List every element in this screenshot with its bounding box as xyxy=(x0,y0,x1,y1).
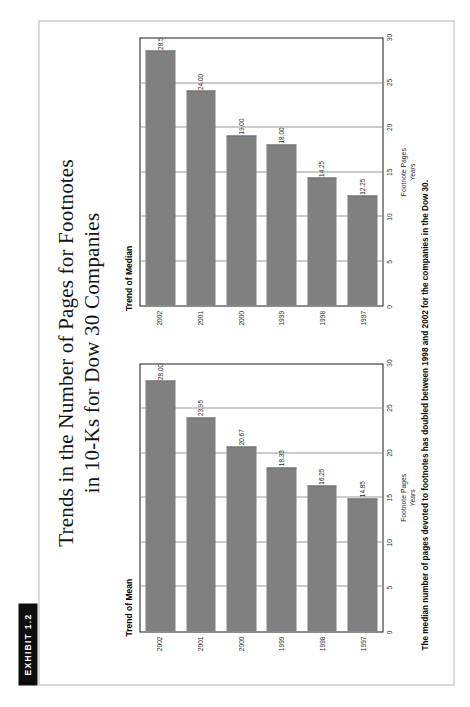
exhibit-caption: The median number of pages devoted to fo… xyxy=(420,43,431,650)
bar xyxy=(186,90,216,305)
value-tick: 15 xyxy=(385,168,392,175)
page-title-line1: Trends in the Number of Pages for Footno… xyxy=(53,159,77,547)
value-tick: 30 xyxy=(385,359,392,366)
chart-title-mean: Trend of Mean xyxy=(123,578,133,636)
bar-row: 19.00 xyxy=(226,38,256,305)
exhibit-frame: Trends in the Number of Pages for Footno… xyxy=(38,20,454,685)
bar-value-label: 16.25 xyxy=(318,468,325,486)
year-axis-mean: 200220012000199919981997 xyxy=(139,632,383,666)
value-axis-title-mean: Years xyxy=(408,363,415,632)
bar-value-label: 14.85 xyxy=(358,481,365,499)
footnote-pages-axis-title: Footnote Pages xyxy=(399,37,406,306)
bar-row: 14.25 xyxy=(307,38,337,305)
bar xyxy=(145,380,175,631)
bar-value-label: 28.50 xyxy=(157,37,164,51)
year-tick: 1999 xyxy=(278,310,285,325)
bar-row: 12.25 xyxy=(347,38,377,305)
bar-value-label: 28.00 xyxy=(157,363,164,381)
value-tick: 0 xyxy=(385,630,392,634)
year-tick: 2000 xyxy=(237,310,244,325)
chart-trend-of-median: Trend of Median 200220012000199919981997… xyxy=(123,35,423,340)
bar xyxy=(347,195,377,305)
page-inner: EXHIBIT 1.2 Trends in the Number of Page… xyxy=(0,0,470,707)
rotated-page: EXHIBIT 1.2 Trends in the Number of Page… xyxy=(0,0,470,707)
value-tick: 30 xyxy=(385,33,392,40)
bar xyxy=(186,417,216,631)
bar xyxy=(307,177,337,305)
bar xyxy=(145,50,175,305)
year-tick: 2000 xyxy=(237,636,244,651)
plot-area-median: 28.5024.0019.0018.0014.2512.25 xyxy=(139,37,383,306)
value-tick: 0 xyxy=(385,305,392,309)
value-axis-title-median: Years xyxy=(408,37,415,306)
bar-value-label: 24.00 xyxy=(197,73,204,91)
bar-series: 28.5024.0019.0018.0014.2512.25 xyxy=(140,38,382,305)
chart-title-median: Trend of Median xyxy=(123,245,133,310)
bar-row: 14.85 xyxy=(347,364,377,631)
value-tick: 10 xyxy=(385,213,392,220)
bar xyxy=(266,467,296,631)
bar-series: 28.0023.9520.6718.3316.2514.85 xyxy=(140,364,382,631)
value-tick: 25 xyxy=(385,78,392,85)
footnote-pages-axis-title: Footnote Pages xyxy=(399,363,406,632)
bar-row: 16.25 xyxy=(307,364,337,631)
value-axis-median: 051015202530Footnote Pages xyxy=(385,37,399,306)
value-axis-mean: 051015202530Footnote Pages xyxy=(385,363,399,632)
year-tick: 1998 xyxy=(319,310,326,325)
page-title-line2: in 10-Ks for Dow 30 Companies xyxy=(79,21,105,684)
year-tick: 1999 xyxy=(278,636,285,651)
bar-row: 20.67 xyxy=(226,364,256,631)
page-title: Trends in the Number of Pages for Footno… xyxy=(53,21,104,684)
value-tick: 25 xyxy=(385,404,392,411)
year-tick: 1997 xyxy=(359,310,366,325)
value-tick: 20 xyxy=(385,123,392,130)
bar-value-label: 19.00 xyxy=(237,118,244,136)
year-tick: 1998 xyxy=(319,636,326,651)
value-tick: 5 xyxy=(385,585,392,589)
value-tick: 10 xyxy=(385,539,392,546)
value-tick: 5 xyxy=(385,260,392,264)
bar-row: 28.00 xyxy=(145,364,175,631)
bar xyxy=(347,498,377,631)
year-tick: 2002 xyxy=(156,310,163,325)
bar-value-label: 23.95 xyxy=(197,400,204,418)
year-tick: 2001 xyxy=(197,310,204,325)
exhibit-label: EXHIBIT 1.2 xyxy=(18,603,37,685)
year-tick: 2001 xyxy=(197,636,204,651)
bar-value-label: 14.25 xyxy=(318,160,325,178)
bar-value-label: 18.00 xyxy=(278,127,285,145)
chart-trend-of-mean: Trend of Mean 200220012000199919981997 2… xyxy=(123,361,423,666)
bar-row: 23.95 xyxy=(186,364,216,631)
bar xyxy=(226,446,256,631)
bar xyxy=(226,135,256,305)
charts-row: Trend of Mean 200220012000199919981997 2… xyxy=(123,35,423,666)
bar-row: 28.50 xyxy=(145,38,175,305)
bar-value-label: 12.25 xyxy=(358,178,365,196)
year-tick: 2002 xyxy=(156,636,163,651)
bar xyxy=(307,485,337,631)
year-tick: 1997 xyxy=(359,636,366,651)
value-tick: 20 xyxy=(385,449,392,456)
bar xyxy=(266,144,296,305)
bar-row: 18.33 xyxy=(266,364,296,631)
bar-value-label: 18.33 xyxy=(278,450,285,468)
value-tick: 15 xyxy=(385,494,392,501)
bar-row: 18.00 xyxy=(266,38,296,305)
page-viewport: EXHIBIT 1.2 Trends in the Number of Page… xyxy=(0,0,470,707)
plot-area-mean: 28.0023.9520.6718.3316.2514.85 xyxy=(139,363,383,632)
bar-row: 24.00 xyxy=(186,38,216,305)
bar-value-label: 20.67 xyxy=(237,429,244,447)
year-axis-median: 200220012000199919981997 xyxy=(139,306,383,340)
